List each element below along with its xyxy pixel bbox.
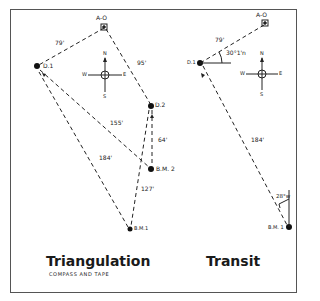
distance-ao-d2: 95' <box>137 60 146 66</box>
line-d1-bm1 <box>39 72 128 227</box>
transit-title: Transit <box>206 254 260 268</box>
label-ao: A-O <box>96 15 107 21</box>
transit-distance-ao-d1: 79' <box>215 37 224 43</box>
line-ao-d1 <box>37 28 104 66</box>
transit-distance-d1-bm1: 184' <box>251 137 264 143</box>
line-d1-bm2 <box>40 70 150 168</box>
label-d2: D.2 <box>155 102 165 108</box>
distance-d1-bm1: 184' <box>99 155 112 161</box>
point-bm2 <box>148 166 154 172</box>
compass-e: E <box>123 72 126 77</box>
d1-angle-arc <box>219 52 222 63</box>
compass-w: W <box>82 72 87 77</box>
bm1-angle-arc <box>279 199 289 204</box>
distance-bm2-bm1: 127' <box>141 186 154 192</box>
triangulation-subtitle: COMPASS AND TAPE <box>49 272 109 277</box>
line-transit-d1-bm1 <box>203 66 287 225</box>
distance-d2-bm2: 64' <box>158 137 167 143</box>
point-d2 <box>148 103 154 109</box>
label-d1: D.1 <box>43 63 53 69</box>
line-d2-bm1 <box>131 110 149 226</box>
transit-label-d1: D.1 <box>187 60 196 65</box>
point-d1 <box>34 63 40 69</box>
compass-rose-icon <box>88 58 122 92</box>
transit-compass-w: W <box>240 71 245 76</box>
line-transit-ao-d1 <box>202 25 264 62</box>
transit-label-ao: A-O <box>256 12 267 18</box>
distance-ao-d1: 79' <box>55 40 64 46</box>
transit-compass-rose-icon <box>246 58 278 90</box>
line-ao-d2 <box>106 29 151 105</box>
transit-angle-bm1: 28°w <box>276 194 290 200</box>
transit-compass-s: S <box>260 92 263 97</box>
transit-compass-e: E <box>279 71 282 76</box>
triangulation-title: Triangulation <box>46 254 150 268</box>
transit-label-bm1: B.M. 1 <box>268 225 284 230</box>
transit-angle-d1: 30°1'n <box>226 50 246 56</box>
compass-s: S <box>103 94 106 99</box>
point-bm1 <box>128 227 133 232</box>
label-bm1: B.M.1 <box>134 226 148 231</box>
compass-n: N <box>103 51 107 56</box>
label-bm2: B.M. 2 <box>156 166 175 172</box>
transit-compass-n: N <box>260 51 264 56</box>
distance-d1-bm2: 155' <box>110 120 123 126</box>
